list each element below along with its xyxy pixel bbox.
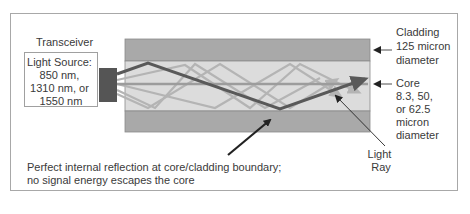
light-source-line: 850 nm, (40, 69, 80, 81)
light-source-line: 1550 nm (40, 95, 83, 107)
fiber-cable (125, 39, 370, 132)
cladding-bottom (125, 111, 370, 132)
light-ray-line: Light (368, 148, 392, 160)
emitter-block (99, 68, 117, 102)
core-line: 8.3, 50, (396, 90, 433, 102)
cladding-line: diameter (396, 54, 439, 66)
cladding-line: Cladding (396, 26, 439, 38)
cladding-top (125, 39, 370, 61)
fiber-optic-diagram: Transceiver Light Source: 850 nm, 1310 n… (0, 0, 470, 214)
core-line: micron (396, 116, 429, 128)
reflection-note-line: Perfect internal reflection at core/clad… (27, 161, 281, 173)
light-source-line: 1310 nm, or (30, 82, 89, 94)
light-ray-label: Light Ray (368, 148, 395, 173)
light-source-line: Light Source: (27, 56, 92, 68)
cladding-line: 125 micron (396, 40, 450, 52)
reflection-note-line: no signal energy escapes the core (27, 174, 195, 186)
light-ray-line: Ray (371, 161, 391, 173)
transceiver-label: Transceiver (36, 36, 93, 48)
core-line: or 62.5 (396, 103, 430, 115)
core-line: Core (396, 77, 420, 89)
core-line: diameter (396, 129, 439, 141)
